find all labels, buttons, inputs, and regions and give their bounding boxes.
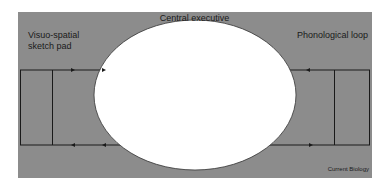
arrow-right-icon [71, 68, 75, 72]
arrow-left-icon [102, 143, 106, 147]
visuo-spatial-label: Visuo-spatial sketch pad [28, 30, 79, 52]
central-executive-label: Central executive [0, 13, 389, 23]
arrow-right-icon [309, 143, 313, 147]
central-executive-ellipse [94, 20, 296, 170]
arrow-left-icon [71, 143, 75, 147]
journal-credit: Current Biology [328, 166, 369, 173]
phonological-loop-label: Phonological loop [297, 30, 368, 40]
diagram-canvas [0, 0, 389, 190]
arrow-left-icon [306, 68, 310, 72]
